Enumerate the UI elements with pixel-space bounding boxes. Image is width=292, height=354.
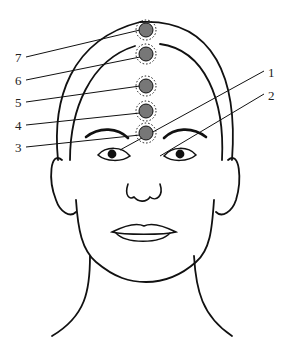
label-3: 3 — [15, 141, 22, 154]
nose — [127, 184, 161, 201]
neck-right — [194, 256, 232, 336]
label-4: 4 — [15, 119, 22, 132]
face-diagram: 7 6 5 4 3 1 2 — [0, 0, 292, 354]
neck-left — [52, 256, 90, 336]
label-6: 6 — [15, 74, 22, 87]
right-eyebrow — [164, 130, 206, 138]
left-ear — [51, 158, 76, 214]
label-5: 5 — [15, 96, 22, 109]
label-2: 2 — [268, 89, 275, 102]
point-markers — [136, 20, 156, 143]
label-7: 7 — [15, 51, 22, 64]
label-1: 1 — [268, 66, 275, 79]
right-ear — [216, 158, 239, 214]
upper-lip — [112, 224, 176, 234]
face-drawing — [0, 0, 292, 354]
